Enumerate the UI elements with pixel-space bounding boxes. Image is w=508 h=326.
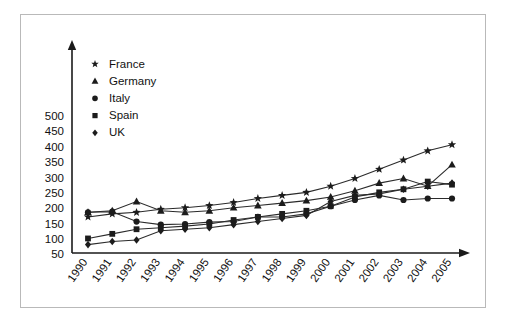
x-axis-arrowhead xyxy=(459,249,470,257)
legend-label: Italy xyxy=(109,92,130,104)
series-spain xyxy=(85,179,455,242)
y-tick-label: 250 xyxy=(45,187,64,199)
legend-triangle-icon xyxy=(92,78,99,84)
data-point-triangle-icon xyxy=(448,161,456,168)
y-tick-label: 300 xyxy=(45,172,64,184)
data-point-square-icon xyxy=(109,231,115,237)
x-tick-label: 1998 xyxy=(259,256,284,284)
data-series-group xyxy=(84,140,456,248)
y-axis-arrowhead xyxy=(68,40,76,50)
data-point-star-icon xyxy=(326,182,334,190)
series-uk xyxy=(85,179,455,248)
y-tick-label: 150 xyxy=(45,218,64,230)
legend-item-germany: Germany xyxy=(92,75,157,87)
series-line xyxy=(88,145,452,217)
data-point-circle-icon xyxy=(425,195,431,201)
data-point-star-icon xyxy=(132,208,140,216)
data-point-circle-icon xyxy=(400,197,406,203)
data-point-star-icon xyxy=(424,146,432,154)
y-tick-label: 500 xyxy=(45,110,64,122)
x-tick-label: 1993 xyxy=(138,256,163,284)
series-germany xyxy=(84,161,456,216)
legend-square-icon xyxy=(92,113,97,118)
series-line xyxy=(88,183,452,245)
legend-item-italy: Italy xyxy=(92,92,130,104)
x-tick-label: 1991 xyxy=(89,256,114,284)
x-tick-label: 1994 xyxy=(162,256,187,284)
y-tick-label: 50 xyxy=(51,248,64,260)
x-tick-label: 2003 xyxy=(381,256,406,284)
x-tick-label: 1999 xyxy=(284,256,309,284)
axes xyxy=(68,40,470,257)
legend-label: France xyxy=(109,58,145,70)
y-tick-label: 450 xyxy=(45,125,64,137)
data-point-diamond-icon xyxy=(133,236,139,244)
data-point-star-icon xyxy=(351,174,359,182)
data-point-diamond-icon xyxy=(109,238,115,246)
y-tick-label: 200 xyxy=(45,202,64,214)
x-tick-label: 1995 xyxy=(186,256,211,284)
data-point-star-icon xyxy=(399,156,407,164)
legend-label: Spain xyxy=(109,109,138,121)
data-point-star-icon xyxy=(302,188,310,196)
x-tick-label: 1992 xyxy=(114,256,139,284)
x-tick-label: 2000 xyxy=(308,256,333,284)
x-tick-label: 1997 xyxy=(235,256,260,284)
y-tick-label: 400 xyxy=(45,141,64,153)
x-tick-label: 1996 xyxy=(211,256,236,284)
legend-item-france: France xyxy=(91,58,145,70)
x-tick-label: 2002 xyxy=(356,256,381,284)
data-point-star-icon xyxy=(375,165,383,173)
legend-star-icon xyxy=(91,60,99,67)
series-line xyxy=(88,165,452,213)
data-point-circle-icon xyxy=(85,209,91,215)
data-point-star-icon xyxy=(278,191,286,199)
x-tick-label: 2005 xyxy=(429,256,454,284)
y-axis-tick-labels: 50100150200250300350400450500 xyxy=(45,110,64,260)
legend-label: UK xyxy=(109,126,125,138)
x-tick-label: 1990 xyxy=(65,256,90,284)
data-point-circle-icon xyxy=(449,195,455,201)
series-italy xyxy=(85,192,455,227)
data-point-circle-icon xyxy=(133,218,139,224)
figure: 50100150200250300350400450500 1990199119… xyxy=(0,0,508,326)
legend-item-spain: Spain xyxy=(92,109,138,121)
data-point-star-icon xyxy=(448,140,456,148)
y-tick-label: 350 xyxy=(45,156,64,168)
data-point-square-icon xyxy=(134,226,140,232)
x-axis-tick-labels: 1990199119921993199419951996199719981999… xyxy=(65,256,454,284)
data-point-triangle-icon xyxy=(400,175,408,182)
data-point-diamond-icon xyxy=(85,241,91,249)
line-chart: 50100150200250300350400450500 1990199119… xyxy=(0,0,508,326)
y-tick-label: 100 xyxy=(45,233,64,245)
legend-diamond-icon xyxy=(92,129,97,136)
legend: FranceGermanyItalySpainUK xyxy=(91,58,156,139)
data-point-triangle-icon xyxy=(133,198,141,205)
data-point-square-icon xyxy=(85,236,91,242)
legend-item-uk: UK xyxy=(92,126,125,138)
x-tick-label: 2004 xyxy=(405,256,430,284)
data-point-circle-icon xyxy=(109,209,115,215)
x-tick-label: 2001 xyxy=(332,256,357,284)
legend-label: Germany xyxy=(109,75,157,87)
legend-circle-icon xyxy=(92,96,98,102)
data-point-star-icon xyxy=(254,194,262,202)
